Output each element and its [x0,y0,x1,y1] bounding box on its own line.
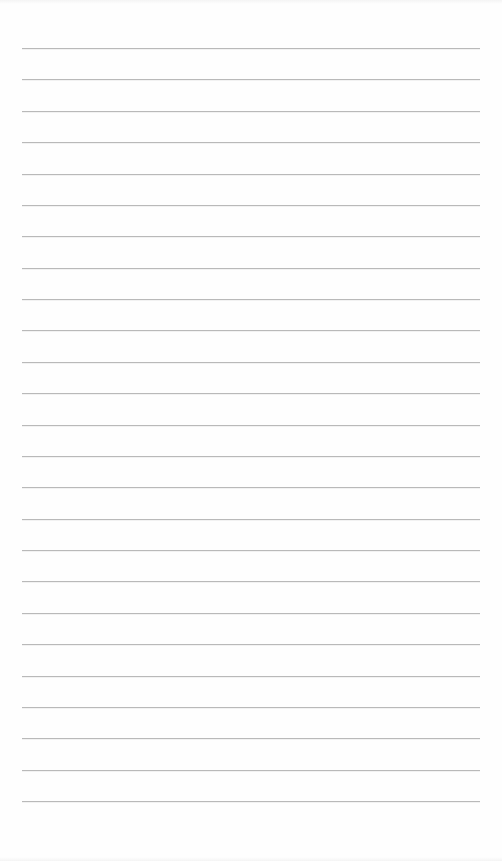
ruled-line [22,456,480,457]
ruled-line [22,519,480,520]
ruled-line [22,581,480,582]
ruled-line [22,111,480,112]
ruled-line [22,393,480,394]
ruled-line [22,268,480,269]
ruled-line [22,738,480,739]
ruled-line [22,487,480,488]
ruled-line [22,425,480,426]
ruled-line [22,707,480,708]
ruled-line [22,205,480,206]
ruled-line [22,299,480,300]
ruled-line [22,362,480,363]
ruled-line [22,48,480,49]
ruled-line [22,174,480,175]
lined-paper-page [0,0,502,861]
top-edge [0,0,502,4]
ruled-line [22,142,480,143]
ruled-line [22,550,480,551]
ruled-line [22,79,480,80]
ruled-line [22,770,480,771]
ruled-line [22,676,480,677]
ruled-line [22,644,480,645]
ruled-line [22,330,480,331]
ruled-line [22,236,480,237]
ruled-line [22,801,480,802]
bottom-edge [0,857,502,861]
ruled-line [22,613,480,614]
